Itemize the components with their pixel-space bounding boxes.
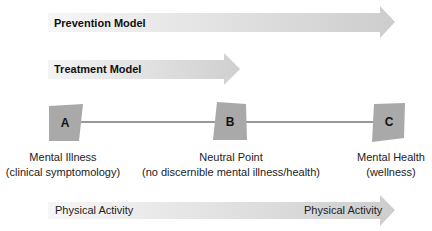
physical-activity-start-label: Physical Activity (55, 204, 133, 217)
point-b-letter: B (214, 103, 246, 140)
mental-health-continuum-diagram: Prevention Model Treatment Model A B C M… (0, 0, 432, 231)
prevention-model-label: Prevention Model (54, 17, 146, 30)
point-b-caption: Neutral Point (no discernible mental ill… (142, 150, 320, 180)
physical-activity-end-label: Physical Activity (304, 204, 382, 217)
point-a-caption: Mental Illness (clinical symptomology) (6, 150, 120, 180)
point-a-letter: A (49, 104, 81, 141)
point-c-letter: C (373, 103, 405, 140)
point-c-caption: Mental Health (wellness) (357, 150, 425, 180)
point-b-subtitle: (no discernible mental illness/health) (142, 165, 320, 180)
point-c-subtitle: (wellness) (357, 165, 425, 180)
point-b-title: Neutral Point (142, 150, 320, 165)
treatment-model-label: Treatment Model (54, 63, 141, 76)
point-a-subtitle: (clinical symptomology) (6, 165, 120, 180)
point-a-title: Mental Illness (6, 150, 120, 165)
point-c-title: Mental Health (357, 150, 425, 165)
